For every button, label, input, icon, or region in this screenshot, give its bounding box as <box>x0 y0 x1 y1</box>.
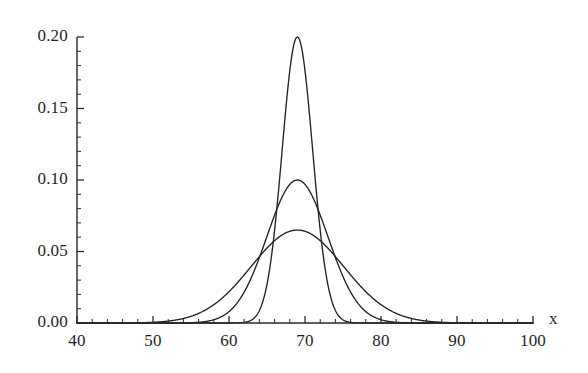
x-tick-label-0: 40 <box>52 331 102 351</box>
y-tick-label-3: 0.05 <box>37 241 68 261</box>
x-tick-label-3: 70 <box>280 331 330 351</box>
x-tick-label-5: 90 <box>432 331 482 351</box>
y-tick-label-4: 0.00 <box>37 312 68 332</box>
x-tick-label-4: 80 <box>356 331 406 351</box>
x-tick-label-1: 50 <box>128 331 178 351</box>
y-tick-label-2: 0.10 <box>37 169 68 189</box>
curves-group <box>77 37 533 323</box>
x-tick-label-6: 100 <box>508 331 558 351</box>
x-axis-title: x <box>549 309 558 329</box>
y-tick-label-0: 0.20 <box>37 26 68 46</box>
axes-group <box>77 37 533 323</box>
x-tick-label-2: 60 <box>204 331 254 351</box>
chart-figure: 0.20 0.15 0.10 0.05 0.00 40 50 60 70 80 … <box>0 0 588 373</box>
y-tick-label-1: 0.15 <box>37 98 68 118</box>
chart-plot-area <box>0 0 588 373</box>
